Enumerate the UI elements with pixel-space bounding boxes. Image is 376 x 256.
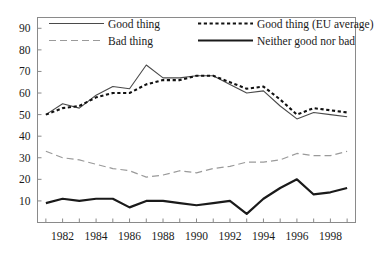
y-tick-label: 90 bbox=[19, 22, 31, 34]
x-tick-label: 1998 bbox=[319, 230, 342, 242]
legend-label: Bad thing bbox=[108, 35, 153, 48]
x-axis-ticks bbox=[46, 219, 347, 223]
series-line-good-thing bbox=[46, 65, 347, 119]
y-tick-label: 70 bbox=[19, 65, 31, 77]
chart-container: 102030405060708090 198219841986198819901… bbox=[0, 0, 376, 256]
data-series-group bbox=[46, 65, 347, 214]
series-line-bad-thing bbox=[46, 151, 347, 177]
legend-label: Good thing (EU average) bbox=[257, 18, 374, 31]
y-tick-label: 20 bbox=[19, 173, 31, 185]
x-tick-label: 1984 bbox=[85, 230, 108, 242]
x-tick-label: 1988 bbox=[152, 230, 175, 242]
plot-frame bbox=[38, 18, 356, 223]
chart-legend: Good thingGood thing (EU average)Bad thi… bbox=[49, 18, 374, 48]
y-tick-label: 30 bbox=[19, 152, 31, 164]
y-tick-label: 60 bbox=[19, 87, 31, 99]
y-axis-tick-labels: 102030405060708090 bbox=[19, 22, 31, 207]
y-tick-label: 40 bbox=[19, 130, 31, 142]
series-line-neither-good-nor-bad bbox=[46, 179, 347, 214]
x-tick-label: 1986 bbox=[118, 230, 141, 242]
x-tick-label: 1982 bbox=[51, 230, 74, 242]
x-tick-label: 1990 bbox=[185, 230, 208, 242]
y-tick-label: 50 bbox=[19, 109, 31, 121]
x-tick-label: 1994 bbox=[252, 230, 275, 242]
legend-label: Neither good nor bad bbox=[257, 35, 355, 48]
y-tick-label: 80 bbox=[19, 44, 31, 56]
series-line-good-thing-eu-average bbox=[46, 76, 347, 115]
x-tick-label: 1992 bbox=[218, 230, 241, 242]
x-tick-label: 1996 bbox=[285, 230, 308, 242]
x-axis-tick-labels: 198219841986198819901992199419961998 bbox=[51, 230, 342, 242]
y-axis-ticks bbox=[38, 28, 42, 201]
y-tick-label: 10 bbox=[19, 195, 31, 207]
line-chart: 102030405060708090 198219841986198819901… bbox=[0, 0, 376, 256]
legend-label: Good thing bbox=[108, 18, 160, 31]
